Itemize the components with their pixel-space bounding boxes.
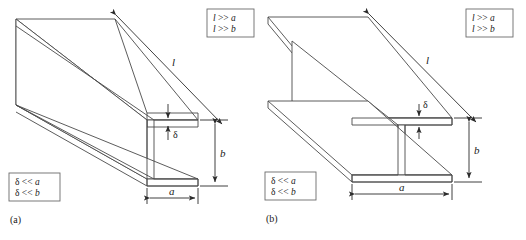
note-length-line2-b: l >> b bbox=[472, 24, 495, 34]
note-thickness-line2-b: δ << b bbox=[271, 187, 296, 197]
note-thickness-line1-b: δ << a bbox=[271, 176, 296, 186]
note-length-line1-a: l >> a bbox=[213, 13, 236, 23]
width-label-b: a bbox=[399, 181, 405, 193]
note-thickness-line2-a: δ << b bbox=[15, 188, 40, 198]
thickness-label-b: δ bbox=[423, 99, 428, 110]
beam-diagram-svg: l δ b a l >> a l >> b bbox=[0, 0, 526, 240]
panel-a-channel-beam: l δ b a l >> a l >> b bbox=[9, 9, 254, 226]
width-label-a: a bbox=[169, 185, 175, 197]
channel-top-flange-front-edge bbox=[147, 120, 198, 127]
height-label-a: b bbox=[220, 147, 226, 159]
note-thickness-line1-a: δ << a bbox=[15, 177, 40, 187]
note-box-length-b: l >> a l >> b bbox=[466, 9, 513, 37]
height-dimension-b: b bbox=[454, 118, 482, 182]
panel-b-i-beam: l δ b a l >> a l >> b bbox=[265, 9, 513, 225]
width-dimension-a: a bbox=[147, 185, 198, 204]
thickness-label-a: δ bbox=[173, 129, 178, 140]
figure-root: l δ b a l >> a l >> b bbox=[0, 0, 526, 240]
note-box-thickness-a: δ << a δ << b bbox=[9, 173, 60, 201]
note-box-length-a: l >> a l >> b bbox=[207, 9, 254, 37]
length-label-a: l bbox=[172, 56, 175, 68]
length-label-b: l bbox=[426, 54, 429, 66]
width-dimension-b: a bbox=[352, 181, 452, 200]
note-length-line1-b: l >> a bbox=[472, 13, 495, 23]
height-dimension-a: b bbox=[200, 120, 228, 186]
panel-caption-b: (b) bbox=[266, 213, 278, 225]
note-length-line2-a: l >> b bbox=[213, 24, 236, 34]
note-box-thickness-b: δ << a δ << b bbox=[265, 172, 316, 200]
height-label-b: b bbox=[474, 144, 480, 156]
panel-caption-a: (a) bbox=[10, 214, 21, 226]
